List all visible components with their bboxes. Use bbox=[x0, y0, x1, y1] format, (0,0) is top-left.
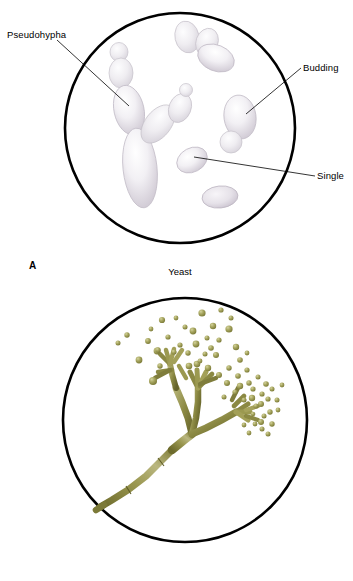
panel-letter-a: A bbox=[29, 260, 36, 271]
label-budding: Budding bbox=[303, 62, 339, 73]
caption-yeast: Yeast bbox=[140, 266, 220, 277]
panel-b-illustration bbox=[0, 290, 353, 581]
label-pseudohypha: Pseudohypha bbox=[7, 29, 66, 40]
label-single: Single bbox=[317, 170, 344, 181]
panel-a-illustration bbox=[0, 0, 353, 290]
panel-a-yeast: Pseudohypha Budding Single A Yeast bbox=[0, 0, 353, 290]
figure-yeast-and-mold: Pseudohypha Budding Single A Yeast bbox=[0, 0, 353, 581]
panel-b-mold: B Mold bbox=[0, 290, 353, 581]
